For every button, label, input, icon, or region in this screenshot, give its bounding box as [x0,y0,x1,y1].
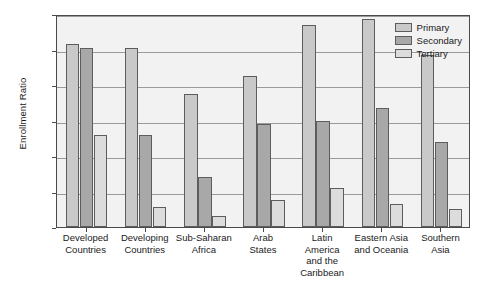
bar-group [302,16,344,227]
y-axis-title: Enrollment Ratio [17,44,28,184]
legend-item-primary: Primary [395,21,462,33]
legend-swatch-icon-primary [395,23,412,32]
bar [80,48,94,227]
legend-item-tertiary: Tertiary [395,47,462,59]
legend-label-primary: Primary [417,22,450,33]
legend: Primary Secondary Tertiary [392,19,465,62]
bar [212,216,226,227]
legend-item-secondary: Secondary [395,34,462,46]
bar [362,19,376,227]
bar [316,121,330,228]
bar [435,142,449,227]
bar [390,204,404,227]
bar [376,108,390,227]
bar [139,135,153,227]
bar [302,25,316,227]
bar [184,94,198,227]
bar [94,135,108,227]
bar [330,188,344,227]
x-axis-tick-labels: DevelopedCountriesDevelopingCountriesSub… [56,232,470,288]
bar [198,177,212,227]
bar-group [66,16,108,227]
bar [449,209,463,227]
plot-area: Primary Secondary Tertiary [56,15,470,228]
bar [257,124,271,227]
legend-swatch-icon-tertiary [395,49,412,58]
y-axis-tick-mark [52,228,56,229]
bar-group [184,16,226,227]
bar [271,200,285,227]
legend-label-secondary: Secondary [417,35,462,46]
bar [421,55,435,227]
legend-swatch-icon-secondary [395,36,412,45]
bar-group [243,16,285,227]
bar-chart: Enrollment Ratio 020406080100120 Primary… [0,0,477,288]
bar [153,207,167,227]
bar [125,48,139,227]
bar-group [125,16,167,227]
x-axis-label-6: SouthernAsia [404,232,477,255]
bar [66,44,80,227]
legend-label-tertiary: Tertiary [417,48,448,59]
bar [243,76,257,227]
